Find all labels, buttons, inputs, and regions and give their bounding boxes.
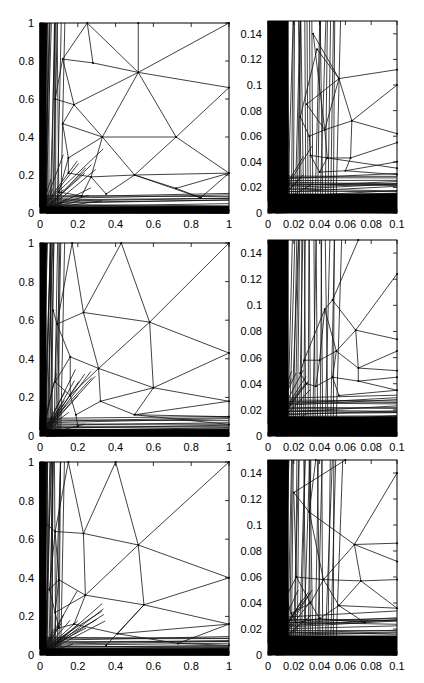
x-tick-label: 0 [265,660,271,672]
x-tick-label: 0.06 [335,660,356,672]
y-tick-label: 0.14 [241,467,262,479]
y-tick-label: 0.06 [241,571,262,583]
mesh-node [295,622,297,624]
mesh-node [293,492,295,494]
y-tick-label: 0.02 [241,623,262,635]
mesh-node [285,596,287,598]
x-tick-label: 0.1 [389,660,404,672]
y-tick-label: 0 [256,649,262,661]
mesh-node [290,612,292,614]
mesh-node [308,511,310,513]
x-tick-label: 0.02 [283,660,304,672]
mesh-plot-r3c2: 00.020.040.060.080.100.020.040.060.080.1… [0,0,424,683]
mesh-node [319,618,321,620]
y-tick-label: 0.1 [247,519,262,531]
x-tick-label: 0.08 [360,660,381,672]
y-tick-label: 0.04 [241,597,262,609]
mesh-node [310,602,312,604]
mesh-node [295,576,297,578]
x-tick-label: 0.04 [309,660,330,672]
mesh-node [322,579,324,581]
mesh-node [338,605,340,607]
boundary-layer-horizontal [268,636,397,656]
boundary-layer-vertical [268,460,289,655]
mesh-node [364,622,366,624]
mesh-node [360,580,362,582]
mesh-node [353,544,355,546]
y-tick-label: 0.12 [241,493,262,505]
y-tick-label: 0.08 [241,545,262,557]
